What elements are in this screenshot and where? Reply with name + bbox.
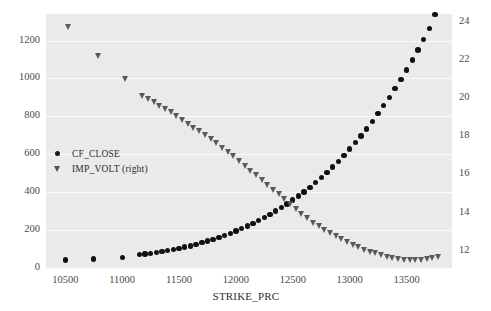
triangle-down-marker-icon	[48, 166, 66, 172]
data-point	[262, 215, 267, 220]
data-point	[199, 240, 204, 245]
gridline	[46, 230, 452, 231]
data-point	[392, 86, 397, 91]
data-point	[279, 205, 284, 210]
data-point	[91, 256, 96, 261]
x-axis-tick-label: 11000	[92, 274, 152, 285]
data-point	[159, 249, 164, 254]
x-axis-tick-label: 11500	[149, 274, 209, 285]
data-point	[435, 254, 441, 260]
legend-label-imp-volt: IMP_VOLT (right)	[66, 164, 148, 174]
y-axis-left-tick-label: 800	[0, 109, 40, 120]
data-point	[324, 170, 329, 175]
data-point	[296, 193, 301, 198]
data-point	[427, 26, 432, 31]
data-point	[171, 247, 176, 252]
x-axis-tick-label: 12500	[263, 274, 323, 285]
gridline	[46, 268, 452, 269]
y-axis-left-tick-label: 1000	[0, 71, 40, 82]
gridline	[46, 116, 452, 117]
data-point	[410, 57, 415, 62]
x-axis-tick-label: 13000	[320, 274, 380, 285]
chart-legend: CF_CLOSE IMP_VOLT (right)	[48, 146, 148, 176]
plot-area	[46, 14, 452, 268]
x-axis-tick-label: 10500	[35, 274, 95, 285]
data-point	[341, 153, 346, 158]
data-point	[267, 212, 272, 217]
data-point	[381, 103, 386, 108]
data-point	[188, 243, 193, 248]
data-point	[120, 255, 125, 260]
y-axis-right-tick-label: 16	[459, 167, 491, 178]
data-point	[398, 77, 403, 82]
data-point	[228, 231, 233, 236]
data-point	[364, 126, 369, 131]
data-point	[142, 251, 147, 256]
gridline	[46, 78, 452, 79]
data-point	[176, 246, 181, 251]
gridline	[46, 41, 452, 42]
data-point	[273, 208, 278, 213]
data-point	[404, 67, 409, 72]
data-point	[137, 252, 142, 257]
data-point	[63, 257, 68, 262]
data-point	[216, 235, 221, 240]
x-axis-tick-label: 12000	[206, 274, 266, 285]
data-point	[307, 185, 312, 190]
y-axis-right-tick-label: 12	[459, 244, 491, 255]
data-point	[210, 237, 215, 242]
data-point	[95, 53, 101, 59]
data-point	[319, 175, 324, 180]
data-point	[233, 228, 238, 233]
data-point	[336, 159, 341, 164]
data-point	[148, 251, 153, 256]
y-axis-right-tick-label: 20	[459, 91, 491, 102]
data-point	[205, 238, 210, 243]
y-axis-left-tick-label: 0	[0, 261, 40, 272]
data-point	[122, 76, 128, 82]
data-point	[353, 140, 358, 145]
data-point	[65, 24, 71, 30]
data-point	[193, 242, 198, 247]
data-point	[256, 218, 261, 223]
y-axis-left-tick-label: 400	[0, 185, 40, 196]
legend-item-imp-volt: IMP_VOLT (right)	[48, 161, 148, 176]
chart-figure: 020040060080010001200 12141618202224 105…	[0, 0, 491, 311]
data-point	[387, 95, 392, 100]
data-point	[301, 189, 306, 194]
data-point	[222, 233, 227, 238]
y-axis-right-tick-label: 24	[459, 15, 491, 26]
y-axis-right-tick-label: 22	[459, 53, 491, 64]
data-point	[250, 221, 255, 226]
data-point	[165, 248, 170, 253]
data-point	[358, 133, 363, 138]
y-axis-right-tick-label: 18	[459, 129, 491, 140]
data-point	[330, 164, 335, 169]
y-axis-left-tick-label: 1200	[0, 34, 40, 45]
data-point	[182, 244, 187, 249]
data-point	[245, 223, 250, 228]
x-axis-label: STRIKE_PRC	[146, 290, 346, 302]
data-point	[370, 119, 375, 124]
y-axis-right-tick-label: 14	[459, 206, 491, 217]
data-point	[313, 180, 318, 185]
data-point	[415, 47, 420, 52]
data-point	[347, 146, 352, 151]
x-axis-tick-label: 13500	[377, 274, 437, 285]
legend-label-cf-close: CF_CLOSE	[66, 149, 120, 159]
circle-marker-icon	[48, 151, 66, 156]
legend-item-cf-close: CF_CLOSE	[48, 146, 148, 161]
data-point	[154, 250, 159, 255]
y-axis-left-tick-label: 200	[0, 223, 40, 234]
gridline	[46, 192, 452, 193]
data-point	[432, 12, 437, 17]
y-axis-left-tick-label: 600	[0, 147, 40, 158]
